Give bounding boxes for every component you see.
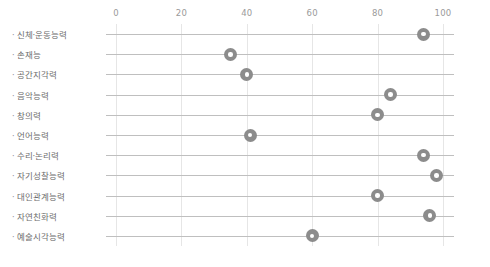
x-tick-label: 0 [96, 8, 136, 18]
category-line [106, 34, 454, 35]
data-point[interactable] [371, 108, 384, 121]
bullet-icon: · [12, 213, 15, 222]
scatter-chart: 020406080100 ·신체·운동능력·손재능·공간지각력·음악능력·창의력… [0, 0, 490, 267]
category-label: ·자연친화력 [12, 210, 116, 222]
data-point[interactable] [244, 129, 257, 142]
bullet-icon: · [12, 92, 15, 101]
category-label-text: 수리·논리력 [17, 151, 60, 161]
category-line [106, 95, 454, 96]
category-label: ·공간지각력 [12, 68, 116, 80]
category-label: ·언어능력 [12, 129, 116, 141]
x-tick-label: 60 [292, 8, 332, 18]
category-label: ·예술시각능력 [12, 230, 116, 242]
category-label-text: 예술시각능력 [17, 232, 65, 242]
category-line [106, 236, 454, 237]
data-point[interactable] [224, 48, 237, 61]
category-label-text: 언어능력 [17, 131, 49, 141]
data-point[interactable] [430, 169, 443, 182]
data-point[interactable] [417, 149, 430, 162]
category-label-text: 음악능력 [17, 91, 49, 101]
x-axis: 020406080100 [116, 0, 443, 24]
x-tick-label: 80 [358, 8, 398, 18]
bullet-icon: · [12, 51, 15, 60]
category-label-text: 손재능 [17, 50, 41, 60]
x-tick-label: 100 [423, 8, 463, 18]
category-label-text: 자기성찰능력 [17, 171, 65, 181]
category-label-text: 대인관계능력 [17, 192, 65, 202]
category-label-text: 창의력 [17, 111, 41, 121]
category-label: ·대인관계능력 [12, 190, 116, 202]
category-line [106, 135, 454, 136]
category-label-text: 신체·운동능력 [17, 30, 68, 40]
category-label: ·신체·운동능력 [12, 28, 116, 40]
data-point[interactable] [423, 209, 436, 222]
data-point[interactable] [384, 88, 397, 101]
category-label: ·자기성찰능력 [12, 169, 116, 181]
bullet-icon: · [12, 71, 15, 80]
category-line [106, 115, 454, 116]
category-line [106, 216, 454, 217]
category-label: ·손재능 [12, 48, 116, 60]
bullet-icon: · [12, 112, 15, 121]
data-point[interactable] [240, 68, 253, 81]
x-tick-label: 40 [227, 8, 267, 18]
bullet-icon: · [12, 152, 15, 161]
category-line [106, 74, 454, 75]
data-point[interactable] [306, 229, 319, 242]
data-point[interactable] [417, 28, 430, 41]
plot-area [116, 24, 443, 246]
bullet-icon: · [12, 193, 15, 202]
category-line [106, 155, 454, 156]
bullet-icon: · [12, 233, 15, 242]
category-line [106, 54, 454, 55]
x-tick-label: 20 [161, 8, 201, 18]
bullet-icon: · [12, 31, 15, 40]
category-line [106, 196, 454, 197]
data-point[interactable] [371, 189, 384, 202]
bullet-icon: · [12, 132, 15, 141]
category-label: ·수리·논리력 [12, 149, 116, 161]
category-label: ·음악능력 [12, 89, 116, 101]
category-line [106, 175, 454, 176]
category-label-text: 공간지각력 [17, 70, 57, 80]
bullet-icon: · [12, 172, 15, 181]
category-label: ·창의력 [12, 109, 116, 121]
category-axis: ·신체·운동능력·손재능·공간지각력·음악능력·창의력·언어능력·수리·논리력·… [12, 24, 116, 246]
category-label-text: 자연친화력 [17, 212, 57, 222]
